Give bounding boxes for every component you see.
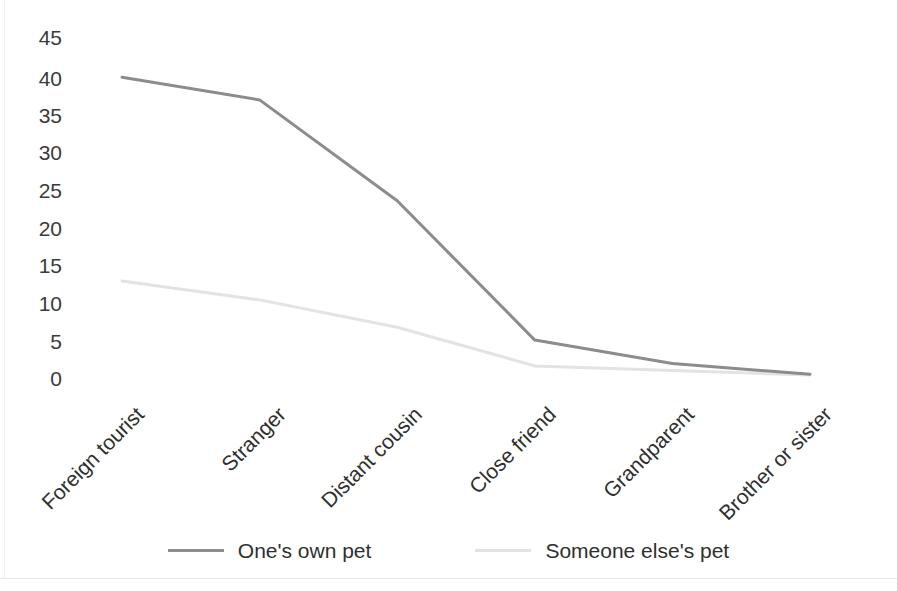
legend-line-swatch-icon: [168, 549, 224, 552]
legend-label: Someone else's pet: [545, 540, 729, 561]
legend-line-swatch-icon: [475, 549, 531, 552]
legend-label: One's own pet: [238, 540, 372, 561]
chart-legend: One's own pet Someone else's pet: [0, 540, 897, 561]
legend-item-someone-elses-pet[interactable]: Someone else's pet: [475, 540, 729, 561]
line-series-ones-own-pet: [122, 77, 810, 374]
legend-item-ones-own-pet[interactable]: One's own pet: [168, 540, 372, 561]
chart-container: 45 40 35 30 25 20 15 10 5 0 Foreign tour…: [0, 0, 897, 591]
line-series-someone-elses-pet: [122, 281, 810, 375]
